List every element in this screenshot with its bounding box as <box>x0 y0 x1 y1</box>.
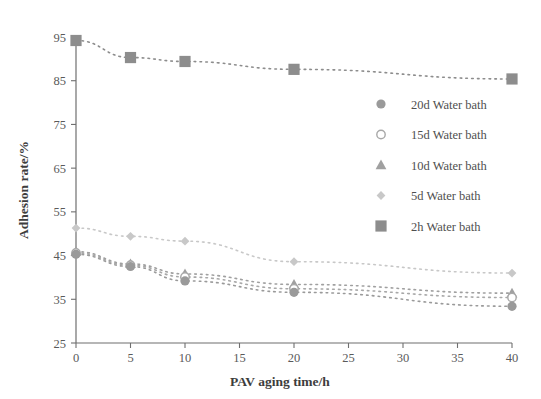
legend-item[interactable]: 15d Water bath <box>377 128 488 142</box>
legend-item[interactable]: 20d Water bath <box>376 98 487 112</box>
x-tick-label: 30 <box>397 351 410 365</box>
data-point-square <box>70 35 81 46</box>
legend-item-label: 20d Water bath <box>411 98 488 112</box>
data-point-open-circle <box>508 293 516 301</box>
legend-item[interactable]: 2h Water bath <box>375 220 481 234</box>
series-lines-group <box>76 40 512 306</box>
y-tick-label: 25 <box>54 337 67 351</box>
x-tick-label: 15 <box>233 351 246 365</box>
x-tick-label: 35 <box>451 351 464 365</box>
x-tick-label: 5 <box>127 351 133 365</box>
y-tick-label: 65 <box>54 162 67 176</box>
legend-item-label: 2h Water bath <box>411 220 481 234</box>
series-markers-group <box>70 35 517 311</box>
data-point-filled-circle <box>71 250 80 259</box>
data-point-diamond <box>72 224 81 233</box>
x-tick-label: 25 <box>342 351 355 365</box>
data-point-diamond <box>508 269 517 278</box>
data-point-filled-circle <box>126 262 135 271</box>
x-tick-label: 40 <box>506 351 519 365</box>
data-point-square <box>288 64 299 75</box>
data-point-square <box>179 56 190 67</box>
adhesion-rate-line-chart: 2535455565758595 0510152025303540 PAV ag… <box>0 0 541 399</box>
data-point-square <box>125 52 136 63</box>
y-tick-label: 55 <box>54 205 67 219</box>
data-point-square <box>506 73 517 84</box>
y-tick-label: 75 <box>54 118 67 132</box>
x-axis-title: PAV aging time/h <box>230 374 330 389</box>
x-tick-label: 20 <box>288 351 301 365</box>
legend-item-label: 15d Water bath <box>411 128 488 142</box>
y-axis-tick-labels: 2535455565758595 <box>54 31 67 351</box>
data-point-diamond <box>126 232 135 241</box>
legend-item[interactable]: 10d Water bath <box>376 159 488 173</box>
legend: 20d Water bath15d Water bath10d Water ba… <box>375 98 487 234</box>
x-axis-tick-labels: 0510152025303540 <box>73 351 518 365</box>
x-axis-ticks <box>76 343 512 348</box>
y-tick-label: 85 <box>54 74 67 88</box>
x-tick-label: 0 <box>73 351 79 365</box>
y-tick-label: 45 <box>54 249 67 263</box>
series-line <box>76 228 512 273</box>
data-point-filled-circle <box>289 288 298 297</box>
y-axis-ticks <box>71 37 76 343</box>
chart-container: 2535455565758595 0510152025303540 PAV ag… <box>0 0 541 399</box>
data-point-open-circle <box>377 130 385 138</box>
legend-item[interactable]: 5d Water bath <box>377 189 482 203</box>
data-point-diamond <box>290 257 299 266</box>
data-point-triangle <box>376 160 387 170</box>
data-point-diamond <box>181 237 190 246</box>
legend-item-label: 10d Water bath <box>411 159 488 173</box>
data-point-filled-circle <box>180 276 189 285</box>
legend-item-label: 5d Water bath <box>411 189 481 203</box>
data-point-square <box>375 220 386 231</box>
y-tick-label: 35 <box>54 293 67 307</box>
data-point-filled-circle <box>507 302 516 311</box>
y-tick-label: 95 <box>54 31 67 45</box>
data-point-filled-circle <box>376 99 385 108</box>
x-tick-label: 10 <box>179 351 192 365</box>
data-point-diamond <box>377 191 386 200</box>
y-axis-title: Adhesion rate/% <box>16 141 31 239</box>
